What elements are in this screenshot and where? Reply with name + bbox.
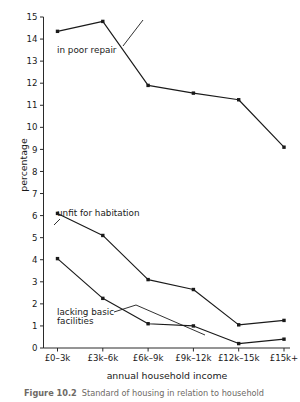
annotation-leader-line <box>54 219 60 225</box>
series-data-point <box>56 257 59 260</box>
y-tick-label: 13 <box>27 56 38 66</box>
x-axis-ticks: £0–3k£3k–6k£6k–9k£9k–12k£12k–15k£15k+ <box>45 348 299 363</box>
series-data-point <box>237 98 240 101</box>
series-data-point <box>237 323 240 326</box>
series-data-point <box>146 84 149 87</box>
y-tick-label: 12 <box>27 78 38 88</box>
series-data-point <box>237 342 240 345</box>
series-data-point <box>101 234 104 237</box>
y-tick-label: 1 <box>32 321 37 331</box>
y-tick-label: 11 <box>27 100 38 110</box>
y-axis-title: percentage <box>18 138 29 192</box>
series-data-point <box>56 30 59 33</box>
y-tick-label: 6 <box>32 211 37 221</box>
series-data-point <box>101 297 104 300</box>
y-tick-label: 5 <box>32 233 37 243</box>
figure-caption: Figure 10.2Standard of housing in relati… <box>24 388 286 399</box>
figure-caption-label: Figure 10.2 <box>24 388 77 398</box>
series-line <box>58 21 285 147</box>
x-tick-label: £6k–9k <box>133 353 164 363</box>
series-data-point <box>192 288 195 291</box>
figure-caption-text: Standard of housing in relation to house… <box>82 388 264 398</box>
x-tick-label: £0–3k <box>45 353 71 363</box>
series-data-point <box>192 324 195 327</box>
line-chart: 0123456789101112131415 £0–3k£3k–6k£6k–9k… <box>0 0 300 402</box>
series-data-point <box>146 278 149 281</box>
series-data-point <box>282 319 285 322</box>
annotation-leader-line <box>136 305 205 335</box>
series-data-point <box>101 20 104 23</box>
y-tick-label: 14 <box>27 34 38 44</box>
y-tick-label: 15 <box>27 12 38 22</box>
series-group <box>54 20 286 346</box>
x-axis-title: annual household income <box>107 370 228 381</box>
y-tick-label: 8 <box>32 167 37 177</box>
y-tick-label: 0 <box>32 343 37 353</box>
series-line <box>58 259 285 344</box>
x-tick-label: £9k–12k <box>175 353 211 363</box>
annotation-lacking-basic-facilities-line2: facilities <box>57 316 94 326</box>
figure-container: 0123456789101112131415 £0–3k£3k–6k£6k–9k… <box>0 0 300 402</box>
y-axis-ticks: 0123456789101112131415 <box>27 12 44 353</box>
series-data-point <box>192 91 195 94</box>
x-tick-label: £12k–15k <box>218 353 260 363</box>
y-tick-label: 2 <box>32 299 37 309</box>
annotation-leader-line <box>123 20 143 46</box>
x-tick-label: £15k+ <box>270 353 299 363</box>
y-tick-label: 4 <box>32 255 37 265</box>
y-tick-label: 7 <box>32 189 37 199</box>
series-data-point <box>282 145 285 148</box>
y-tick-label: 9 <box>32 145 37 155</box>
y-tick-label: 10 <box>27 122 38 132</box>
annotation-unfit-for-habitation: unfit for habitation <box>57 208 140 218</box>
x-tick-label: £3k–6k <box>87 353 118 363</box>
series-data-point <box>146 322 149 325</box>
annotation-in-poor-repair: in poor repair <box>57 45 117 55</box>
series-data-point <box>282 337 285 340</box>
y-tick-label: 3 <box>32 277 37 287</box>
